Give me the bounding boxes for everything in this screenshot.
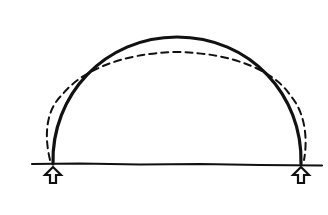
- deformed-arch-dashed: [47, 52, 306, 160]
- arch-diagram-svg: [0, 0, 328, 215]
- right-support-arrow-icon: [293, 167, 309, 183]
- original-arch-solid: [53, 37, 301, 164]
- arch-diagram: ground line original arch (solid) deform…: [0, 0, 328, 215]
- left-support-arrow-icon: [45, 167, 61, 183]
- ground-line: [32, 164, 322, 166]
